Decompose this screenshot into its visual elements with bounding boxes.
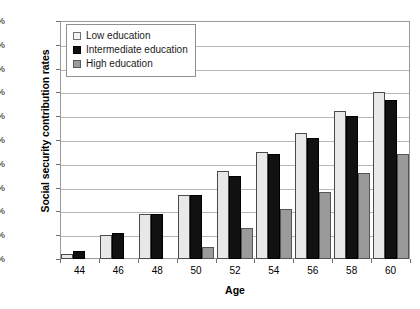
- bar: [73, 251, 85, 259]
- x-tick-label: 54: [254, 265, 294, 276]
- legend-swatch-intermediate-icon: [73, 46, 81, 54]
- bar: [139, 214, 151, 259]
- legend-item-intermediate: Intermediate education: [73, 43, 188, 57]
- bar-group: [256, 21, 292, 259]
- x-tick-label: 48: [137, 265, 177, 276]
- y-tick-label: 10%: [0, 229, 5, 240]
- legend-item-low: Low education: [73, 29, 188, 43]
- x-tick-label: 52: [215, 265, 255, 276]
- x-tick-label: 56: [293, 265, 333, 276]
- y-tick-label: 70%: [0, 86, 5, 97]
- bar: [256, 152, 268, 259]
- bar-group: [295, 21, 331, 259]
- bar: [229, 176, 241, 259]
- bar: [334, 111, 346, 259]
- bar: [397, 154, 409, 259]
- y-tick-label: 40%: [0, 158, 5, 169]
- y-tick-label: 50%: [0, 134, 5, 145]
- legend-swatch-high-icon: [73, 60, 81, 68]
- y-tick-label: 90%: [0, 39, 5, 50]
- x-tick-label: 60: [371, 265, 411, 276]
- bar-chart: Social security contribution rates 0%10%…: [0, 0, 420, 309]
- bar: [319, 192, 331, 259]
- x-tick-label: 44: [59, 265, 99, 276]
- legend-label-high: High education: [86, 58, 153, 70]
- x-tick-mark: [60, 259, 61, 263]
- x-axis-title: Age: [60, 284, 410, 296]
- legend-label-intermediate: Intermediate education: [86, 44, 188, 56]
- y-tick-label: 20%: [0, 205, 5, 216]
- bar: [385, 100, 397, 259]
- x-tick-mark: [371, 259, 372, 263]
- bar: [268, 154, 280, 259]
- y-tick-label: 80%: [0, 63, 5, 74]
- bar-group: [334, 21, 370, 259]
- bar: [151, 214, 163, 259]
- x-tick-label: 58: [332, 265, 372, 276]
- bar: [358, 173, 370, 259]
- x-tick-mark: [138, 259, 139, 263]
- x-tick-label: 50: [176, 265, 216, 276]
- x-tick-label: 46: [98, 265, 138, 276]
- bar: [280, 209, 292, 259]
- legend-swatch-low-icon: [73, 32, 81, 40]
- x-tick-mark: [332, 259, 333, 263]
- bar: [190, 195, 202, 259]
- bar: [307, 138, 319, 259]
- bar: [61, 254, 73, 259]
- x-tick-mark: [254, 259, 255, 263]
- legend-item-high: High education: [73, 57, 188, 71]
- bar: [217, 171, 229, 259]
- bar: [373, 92, 385, 259]
- y-tick-label: 100%: [0, 15, 5, 26]
- bar: [241, 228, 253, 259]
- x-tick-mark: [293, 259, 294, 263]
- y-tick-label: 30%: [0, 182, 5, 193]
- y-tick-label: 0%: [0, 253, 5, 264]
- bar: [346, 116, 358, 259]
- x-tick-mark: [177, 259, 178, 263]
- x-tick-mark: [216, 259, 217, 263]
- bar: [112, 233, 124, 259]
- legend-label-low: Low education: [86, 30, 151, 42]
- y-axis-title: Social security contribution rates: [39, 16, 51, 246]
- bar-group: [373, 21, 409, 259]
- bar: [295, 133, 307, 259]
- legend: Low education Intermediate education Hig…: [66, 24, 196, 77]
- bar: [100, 235, 112, 259]
- y-tick-label: 60%: [0, 110, 5, 121]
- bar: [202, 247, 214, 259]
- bar-group: [217, 21, 253, 259]
- bar: [178, 195, 190, 259]
- x-tick-mark: [99, 259, 100, 263]
- x-tick-mark: [410, 259, 411, 263]
